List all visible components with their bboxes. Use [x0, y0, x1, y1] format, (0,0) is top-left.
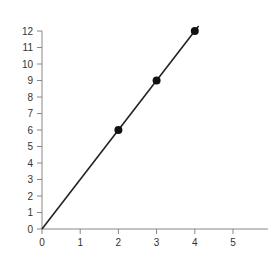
y-tick-label: 2	[27, 191, 33, 202]
x-tick-label: 2	[116, 237, 122, 248]
y-tick-label: 7	[27, 108, 33, 119]
axes: 0123456789101112012345	[22, 26, 268, 249]
y-tick-label: 6	[27, 125, 33, 136]
x-tick-label: 0	[39, 237, 45, 248]
x-tick-label: 4	[192, 237, 198, 248]
y-tick-label: 3	[27, 174, 33, 185]
x-tick-label: 1	[77, 237, 83, 248]
y-tick-label: 8	[27, 92, 33, 103]
y-tick-label: 4	[27, 158, 33, 169]
y-tick-label: 11	[23, 42, 34, 53]
data-point	[153, 77, 161, 85]
x-tick-label: 3	[154, 237, 160, 248]
x-tick-label: 5	[230, 237, 236, 248]
data-point	[114, 126, 122, 134]
line-chart: 0123456789101112012345	[0, 0, 268, 273]
y-tick-label: 0	[27, 224, 33, 235]
y-tick-label: 10	[22, 59, 34, 70]
plot-area	[42, 26, 199, 229]
y-tick-label: 12	[22, 26, 34, 37]
y-tick-label: 9	[27, 75, 33, 86]
data-point	[191, 27, 199, 35]
y-tick-label: 5	[27, 141, 33, 152]
y-tick-label: 1	[27, 207, 33, 218]
